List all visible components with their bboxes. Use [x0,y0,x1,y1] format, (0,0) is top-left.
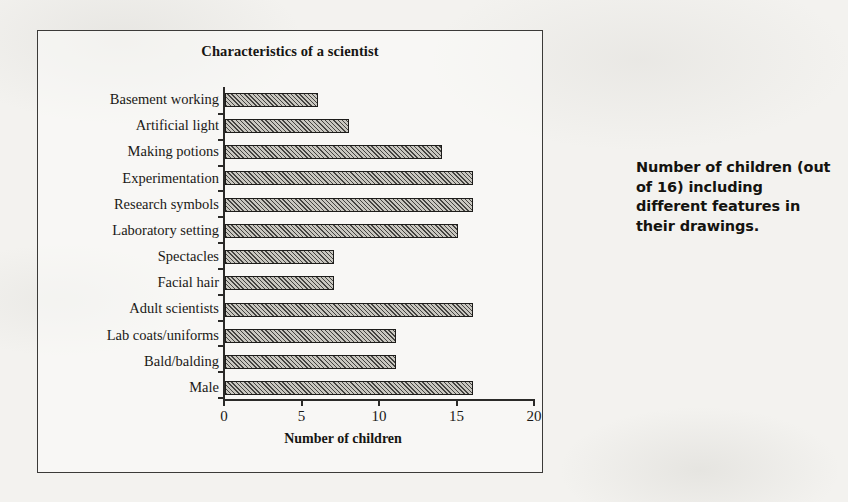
bar [225,119,349,133]
bar-row [225,194,538,215]
chart-title: Characteristics of a scientist [38,43,542,60]
category-label: Experimentation [38,169,223,190]
category-label: Research symbols [38,195,223,216]
category-label: Bald/balding [38,352,223,373]
bar-row [225,352,538,373]
bar-row [225,273,538,294]
category-label: Facial hair [38,273,223,294]
category-axis-labels: Basement working Artificial light Making… [38,89,223,399]
y-axis-tick [218,294,224,296]
category-label: Making potions [38,142,223,163]
bar-row [225,378,538,399]
bars-area [223,89,538,399]
side-caption: Number of children (out of 16) including… [636,158,836,236]
y-axis-tick [218,268,224,270]
y-axis-tick [218,242,224,244]
x-axis-tick-label: 5 [298,408,306,425]
x-axis-tick-label: 15 [449,408,464,425]
y-axis-tick [218,139,224,141]
bar [225,93,318,107]
x-axis: 05101520 [223,399,538,429]
bar-row [225,325,538,346]
y-axis-tick [218,371,224,373]
y-axis-tick [218,320,224,322]
x-axis-tick [378,399,380,406]
y-axis-tick [218,190,224,192]
bar [225,171,473,185]
category-label: Adult scientists [38,299,223,320]
x-axis-tick [533,399,535,406]
x-axis-tick [223,399,225,406]
category-label: Laboratory setting [38,221,223,242]
category-label: Lab coats/uniforms [38,326,223,347]
bar-rows [225,89,538,399]
category-label: Artificial light [38,116,223,137]
category-label: Basement working [38,90,223,111]
x-axis-tick-label: 0 [220,408,228,425]
bar-chart-plot: Basement working Artificial light Making… [38,89,544,419]
bar-row [225,168,538,189]
x-axis-tick [301,399,303,406]
x-axis-tick-label: 20 [527,408,542,425]
x-axis-title: Number of children [188,431,498,447]
bar-row [225,142,538,163]
bar [225,381,473,395]
bar [225,276,334,290]
y-axis-tick [218,113,224,115]
bar-row [225,220,538,241]
bar [225,303,473,317]
x-axis-tick [456,399,458,406]
y-axis-tick [218,345,224,347]
bar-row [225,299,538,320]
bar [225,145,442,159]
bar [225,224,458,238]
bar [225,250,334,264]
x-axis-tick-label: 10 [372,408,387,425]
category-label: Spectacles [38,247,223,268]
bar [225,329,396,343]
bar [225,355,396,369]
y-axis-tick [218,216,224,218]
bar-row [225,115,538,136]
bar-row [225,89,538,110]
y-axis-tick [218,165,224,167]
category-label: Male [38,378,223,399]
bar [225,198,473,212]
bar-row [225,247,538,268]
figure-box: Characteristics of a scientist Basement … [37,30,543,473]
